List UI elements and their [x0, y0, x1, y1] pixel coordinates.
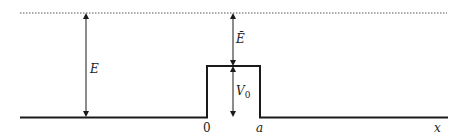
label-barrier-width: a [256, 121, 263, 135]
label-excess-energy: Ē [235, 31, 245, 46]
label-total-energy: E [89, 62, 99, 76]
label-x-axis: x [434, 121, 441, 135]
potential-profile [20, 66, 448, 118]
label-barrier-height: V0 [236, 84, 251, 100]
barrier-diagram: E Ē V0 0 a x [0, 0, 466, 139]
label-origin: 0 [203, 121, 211, 135]
